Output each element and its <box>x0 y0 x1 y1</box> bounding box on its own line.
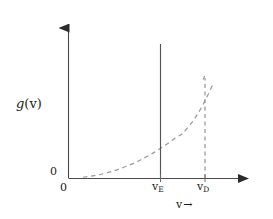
y-axis-label-paren-close: ) <box>37 96 42 111</box>
right-arrow-icon: → <box>182 198 192 211</box>
density-of-states-curve <box>83 84 213 178</box>
x-axis-origin-label: 0 <box>60 182 67 193</box>
x-axis-label: v→ <box>176 199 192 210</box>
y-axis-label-argument: v <box>29 96 36 111</box>
x-tick-label-v-sub-D-subscript: D <box>203 185 209 194</box>
x-tick-label-v-sub-E: vE <box>152 181 164 194</box>
y-axis-label: g(v) <box>16 97 42 110</box>
x-tick-label-v-sub-D: vD <box>197 181 209 194</box>
x-tick-label-v-sub-E-subscript: E <box>158 185 163 194</box>
figure-canvas: g(v) 0 0 vE vD v→ <box>0 0 273 219</box>
curve-peak-tip <box>203 76 204 80</box>
y-axis-origin-label: 0 <box>50 166 57 177</box>
